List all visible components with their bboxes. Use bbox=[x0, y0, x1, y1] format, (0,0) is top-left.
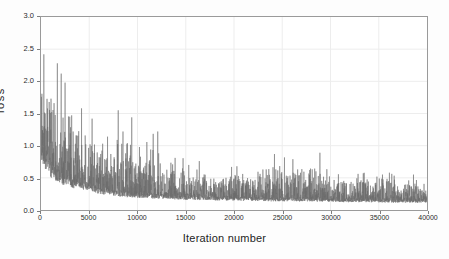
y-tick-label: 3.0 bbox=[0, 12, 34, 20]
x-tick-mark bbox=[89, 211, 90, 214]
x-axis-title: Iteration number bbox=[0, 232, 449, 244]
x-tick-mark bbox=[137, 211, 138, 214]
loss-series-line bbox=[41, 17, 427, 210]
plot-area bbox=[40, 16, 428, 211]
y-tick-label: 2.0 bbox=[0, 77, 34, 85]
y-tick-label: 0.5 bbox=[0, 175, 34, 183]
x-tick-mark bbox=[331, 211, 332, 214]
x-tick-label: 15000 bbox=[176, 214, 195, 221]
y-tick-mark bbox=[37, 49, 40, 50]
x-tick-label: 35000 bbox=[370, 214, 389, 221]
x-tick-mark bbox=[380, 211, 381, 214]
y-tick-mark bbox=[37, 179, 40, 180]
x-tick-label: 40000 bbox=[418, 214, 437, 221]
x-tick-label: 0 bbox=[38, 214, 42, 221]
x-tick-label: 30000 bbox=[321, 214, 340, 221]
x-tick-mark bbox=[283, 211, 284, 214]
y-tick-label: 1.0 bbox=[0, 142, 34, 150]
y-tick-mark bbox=[37, 81, 40, 82]
x-tick-label: 10000 bbox=[127, 214, 146, 221]
y-tick-label: 2.5 bbox=[0, 45, 34, 53]
y-tick-label: 0.0 bbox=[0, 207, 34, 215]
x-tick-mark bbox=[428, 211, 429, 214]
x-tick-mark bbox=[234, 211, 235, 214]
x-tick-mark bbox=[40, 211, 41, 214]
x-tick-mark bbox=[186, 211, 187, 214]
x-tick-label: 5000 bbox=[81, 214, 97, 221]
figure: 0.00.51.01.52.02.53.0 050001000015000200… bbox=[0, 0, 449, 259]
x-tick-label: 20000 bbox=[224, 214, 243, 221]
y-tick-mark bbox=[37, 114, 40, 115]
y-axis-title: loss bbox=[0, 87, 6, 113]
y-tick-mark bbox=[37, 16, 40, 17]
x-tick-label: 25000 bbox=[273, 214, 292, 221]
y-tick-mark bbox=[37, 146, 40, 147]
